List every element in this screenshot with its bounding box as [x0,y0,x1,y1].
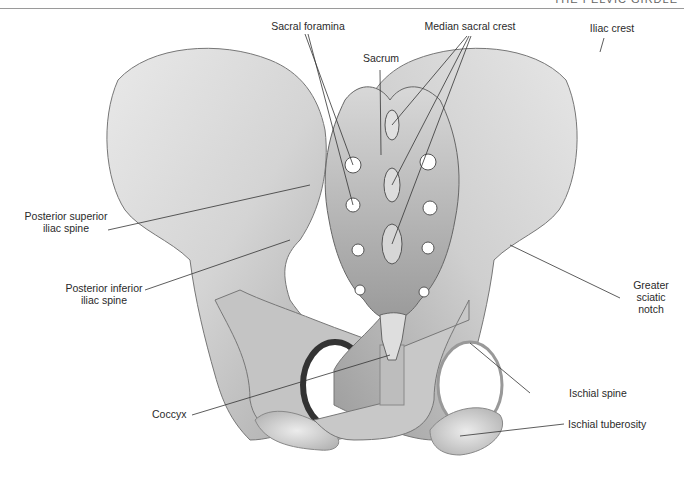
leader-greater-sciatic [510,245,620,298]
label-sacrum: Sacrum [356,52,406,64]
leader-iliac-crest [600,38,604,52]
sacral-foramen [355,285,365,295]
label-psis-line-1: Posterior superior [16,210,116,222]
label-posterior-superior-iliac-spine: Posterior superior iliac spine [16,210,116,234]
label-ischial-spine: Ischial spine [569,387,627,399]
sacral-foramen [422,242,434,254]
label-gsn-line-1: Greater [626,279,676,291]
pelvis-illustration [0,0,684,486]
label-sacral-foramina: Sacral foramina [253,20,363,32]
label-coccyx: Coccyx [152,408,186,420]
label-median-sacral-crest: Median sacral crest [410,20,530,32]
sacral-foramen [423,201,437,215]
label-iliac-crest: Iliac crest [582,22,642,34]
label-psis-line-2: iliac spine [16,222,116,234]
label-ischial-tuberosity: Ischial tuberosity [568,418,646,430]
label-greater-sciatic-notch: Greater sciatic notch [626,279,676,315]
label-gsn-line-3: notch [626,303,676,315]
sacral-foramen [419,287,429,297]
label-piis-line-2: iliac spine [54,294,154,306]
label-piis-line-1: Posterior inferior [54,282,154,294]
label-gsn-line-2: sciatic [626,291,676,303]
sacral-foramen [352,244,364,256]
sacral-foramen [420,154,436,170]
label-posterior-inferior-iliac-spine: Posterior inferior iliac spine [54,282,154,306]
